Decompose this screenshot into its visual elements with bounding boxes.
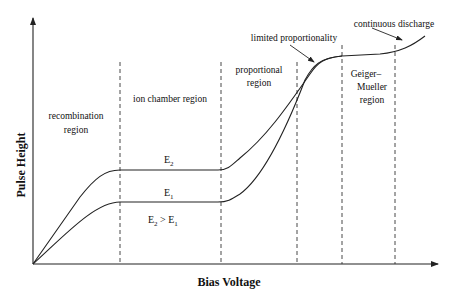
limited-proportionality-label: limited proportionality — [251, 33, 338, 43]
diagram-canvas: Pulse Height Bias Voltage recombination … — [0, 0, 455, 299]
continuous-discharge-label: continuous discharge — [354, 19, 434, 29]
energy-comparison-label: E2 > E1 — [148, 214, 178, 228]
continuous-discharge-arrow — [372, 28, 402, 40]
e2-label: E2 — [164, 154, 174, 168]
recombination-label-line2: region — [64, 125, 89, 135]
proportional-label-line1: proportional — [236, 65, 283, 75]
proportional-label-line2: region — [247, 78, 272, 88]
recombination-label-line1: recombination — [49, 111, 104, 121]
cmp-operator: > — [158, 214, 169, 225]
e1-label: E1 — [164, 187, 174, 201]
y-axis-label: Pulse Height — [14, 132, 28, 197]
geiger-label-line3: region — [360, 95, 385, 105]
curve-e1 — [33, 56, 342, 264]
geiger-label-line2: Mueller — [357, 82, 388, 92]
pulse-height-diagram: Pulse Height Bias Voltage recombination … — [0, 0, 455, 299]
x-axis-label: Bias Voltage — [197, 275, 261, 289]
cmp-e1-sub: 1 — [174, 220, 178, 228]
ion-chamber-label: ion chamber region — [133, 94, 207, 104]
e1-sub: 1 — [170, 193, 174, 201]
geiger-label-line1: Geiger– — [351, 69, 382, 79]
e2-sub: 2 — [170, 160, 174, 168]
limited-proportionality-arrow — [290, 45, 314, 62]
